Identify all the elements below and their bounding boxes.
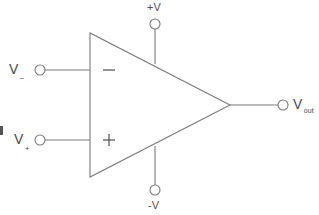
output-label: Vout bbox=[293, 97, 313, 111]
inverting-input-label-base: V bbox=[9, 61, 19, 77]
negative-supply-label: -V bbox=[148, 200, 159, 211]
inverting-input-label: V− bbox=[9, 62, 24, 80]
noninverting-input-terminal[interactable] bbox=[35, 135, 45, 145]
noninverting-input-label: V+ bbox=[14, 132, 29, 150]
positive-supply-terminal[interactable] bbox=[150, 19, 160, 29]
opamp-diagram: V− V+ Vout +V -V bbox=[0, 0, 319, 215]
negative-supply-terminal[interactable] bbox=[150, 185, 160, 195]
cropped-edge-mark bbox=[0, 126, 3, 135]
output-terminal[interactable] bbox=[278, 100, 288, 110]
positive-supply-label: +V bbox=[147, 2, 161, 13]
output-label-subscript: out bbox=[304, 107, 314, 114]
inverting-input-label-subscript: − bbox=[20, 74, 25, 83]
opamp-triangle-body bbox=[90, 33, 230, 177]
opamp-schematic-svg bbox=[0, 0, 319, 215]
output-label-base: V bbox=[293, 96, 303, 112]
noninverting-input-label-base: V bbox=[14, 131, 24, 147]
inverting-input-terminal[interactable] bbox=[35, 65, 45, 75]
noninverting-input-label-subscript: + bbox=[25, 144, 30, 153]
plus-sign-icon bbox=[103, 134, 115, 146]
